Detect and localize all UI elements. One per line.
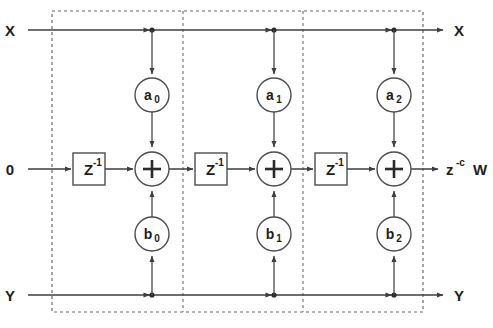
- label-b0: b: [144, 226, 153, 242]
- label-a1-subscript: 1: [276, 94, 282, 105]
- filter-section-1: a 1 Z -1 b 1: [195, 30, 291, 295]
- y-tap-arrow-0: [144, 292, 151, 297]
- coefficient-node-a2[interactable]: [377, 78, 411, 112]
- label-w-output-symbol: W: [473, 161, 488, 178]
- label-w-output: z -c W: [446, 157, 488, 178]
- diagram-canvas: X X Y Y 0 z -c W: [0, 0, 493, 328]
- filter-section-2: a 2 Z -1 b 2: [315, 30, 411, 295]
- label-a2-subscript: 2: [396, 94, 402, 105]
- filter-section-0: a 0 Z -1 b 0: [73, 30, 169, 295]
- label-w-output-base: z: [446, 161, 454, 178]
- label-delay0-exponent: -1: [93, 157, 102, 168]
- y-tap-arrow-1: [266, 292, 273, 297]
- label-b2: b: [386, 226, 395, 242]
- label-x-output: X: [454, 22, 464, 39]
- x-tap-arrow-2: [386, 27, 393, 32]
- signal-flow-diagram: X X Y Y 0 z -c W: [0, 0, 493, 328]
- label-delay0-base: Z: [84, 161, 93, 178]
- label-w-output-exponent: -c: [456, 157, 465, 168]
- coefficient-node-a0[interactable]: [135, 78, 169, 112]
- outer-dashed-boundary: [52, 11, 423, 312]
- label-a0: a: [144, 87, 152, 103]
- label-x-input: X: [5, 22, 15, 39]
- label-delay2-base: Z: [326, 161, 335, 178]
- label-b1: b: [266, 226, 275, 242]
- label-y-input: Y: [5, 287, 15, 304]
- label-a1: a: [266, 87, 274, 103]
- label-a2: a: [386, 87, 394, 103]
- x-tap-arrow-0: [144, 27, 151, 32]
- label-y-output: Y: [454, 287, 464, 304]
- label-a0-subscript: 0: [154, 94, 160, 105]
- label-delay2-exponent: -1: [335, 157, 344, 168]
- y-tap-arrow-2: [386, 292, 393, 297]
- label-b0-subscript: 0: [154, 233, 160, 244]
- label-b2-subscript: 2: [396, 233, 402, 244]
- x-tap-arrow-1: [266, 27, 273, 32]
- label-delay1-base: Z: [206, 161, 215, 178]
- label-delay1-exponent: -1: [215, 157, 224, 168]
- label-b1-subscript: 1: [276, 233, 282, 244]
- label-zero-input: 0: [6, 161, 14, 178]
- coefficient-node-a1[interactable]: [257, 78, 291, 112]
